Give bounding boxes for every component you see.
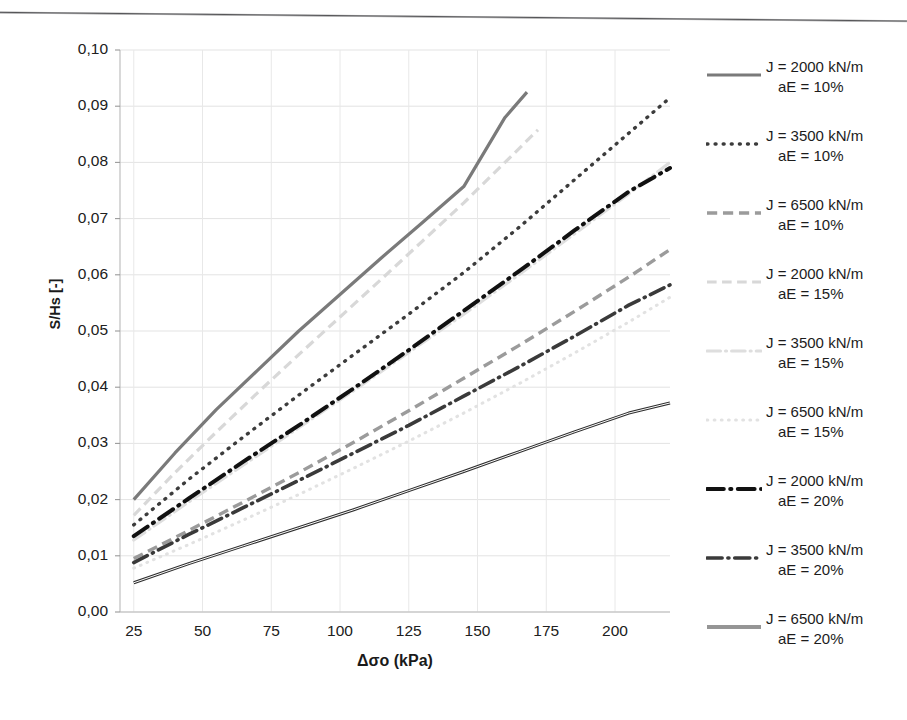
legend-item[interactable]: J = 2000 kN/maE = 20% bbox=[700, 469, 900, 538]
y-tick-label: 0,03 bbox=[50, 433, 108, 451]
legend-line-swatch bbox=[706, 66, 762, 76]
legend-label-line-1: J = 3500 kN/m bbox=[766, 127, 863, 144]
legend-label-line-2: aE = 20% bbox=[766, 629, 906, 649]
legend-label-line-2: aE = 10% bbox=[766, 77, 906, 97]
y-tick-label: 0,07 bbox=[50, 209, 108, 227]
legend-label-line-2: aE = 15% bbox=[766, 422, 906, 442]
legend-item[interactable]: J = 3500 kN/maE = 10% bbox=[700, 124, 900, 193]
legend-label: J = 3500 kN/maE = 20% bbox=[766, 540, 906, 580]
legend-label-line-1: J = 2000 kN/m bbox=[766, 472, 863, 489]
legend-label: J = 3500 kN/maE = 10% bbox=[766, 126, 906, 166]
legend-line-swatch bbox=[706, 549, 762, 559]
series-line bbox=[134, 250, 670, 559]
y-tick-label: 0,09 bbox=[50, 96, 108, 114]
legend-label-line-1: J = 2000 kN/m bbox=[766, 58, 863, 75]
y-axis-title: S/Hs [-] bbox=[47, 244, 63, 364]
legend-item[interactable]: J = 2000 kN/maE = 10% bbox=[700, 55, 900, 124]
y-tick-label: 0,01 bbox=[50, 546, 108, 564]
legend-label: J = 6500 kN/maE = 15% bbox=[766, 402, 906, 442]
legend-line-swatch bbox=[706, 273, 762, 283]
legend-label-line-1: J = 2000 kN/m bbox=[766, 265, 863, 282]
x-tick-label: 50 bbox=[179, 622, 227, 640]
x-tick-label: 150 bbox=[454, 622, 502, 640]
legend-label-line-1: J = 3500 kN/m bbox=[766, 541, 863, 558]
x-tick-label: 175 bbox=[522, 622, 570, 640]
chart-figure: 0,000,010,020,030,040,050,060,070,080,09… bbox=[0, 0, 907, 720]
x-tick-label: 100 bbox=[316, 622, 364, 640]
series-line bbox=[134, 285, 670, 563]
x-tick-label: 200 bbox=[591, 622, 639, 640]
legend-label-line-1: J = 6500 kN/m bbox=[766, 403, 863, 420]
legend-item[interactable]: J = 6500 kN/maE = 15% bbox=[700, 400, 900, 469]
legend-label-line-1: J = 6500 kN/m bbox=[766, 610, 863, 627]
legend-label-line-2: aE = 20% bbox=[766, 560, 906, 580]
legend-line-swatch bbox=[706, 135, 762, 145]
y-tick-label: 0,02 bbox=[50, 490, 108, 508]
series-line bbox=[134, 297, 670, 568]
legend-label-line-2: aE = 10% bbox=[766, 215, 906, 235]
legend-label: J = 2000 kN/maE = 10% bbox=[766, 57, 906, 97]
legend-label: J = 2000 kN/maE = 15% bbox=[766, 264, 906, 304]
legend-label: J = 6500 kN/maE = 10% bbox=[766, 195, 906, 235]
chart-legend: J = 2000 kN/maE = 10%J = 3500 kN/maE = 1… bbox=[700, 55, 900, 676]
legend-item[interactable]: J = 3500 kN/maE = 15% bbox=[700, 331, 900, 400]
legend-item[interactable]: J = 6500 kN/maE = 10% bbox=[700, 193, 900, 262]
legend-label: J = 2000 kN/maE = 20% bbox=[766, 471, 906, 511]
legend-line-swatch bbox=[706, 204, 762, 214]
legend-label-line-1: J = 6500 kN/m bbox=[766, 196, 863, 213]
x-tick-label: 125 bbox=[385, 622, 433, 640]
legend-line-swatch bbox=[706, 411, 762, 421]
legend-line-swatch bbox=[706, 480, 762, 490]
legend-line-swatch bbox=[706, 618, 762, 628]
x-tick-label: 75 bbox=[247, 622, 295, 640]
series-line bbox=[134, 92, 527, 499]
legend-label-line-2: aE = 20% bbox=[766, 491, 906, 511]
data-series-group bbox=[134, 92, 670, 583]
y-tick-label: 0,04 bbox=[50, 377, 108, 395]
legend-label-line-2: aE = 15% bbox=[766, 284, 906, 304]
y-tick-label: 0,00 bbox=[50, 602, 108, 620]
legend-item[interactable]: J = 2000 kN/maE = 15% bbox=[700, 262, 900, 331]
y-tick-label: 0,10 bbox=[50, 40, 108, 58]
x-axis-title: Δσo (kPa) bbox=[120, 652, 670, 670]
legend-label-line-2: aE = 10% bbox=[766, 146, 906, 166]
legend-item[interactable]: J = 6500 kN/maE = 20% bbox=[700, 607, 900, 676]
legend-line-swatch bbox=[706, 342, 762, 352]
x-tick-label: 25 bbox=[110, 622, 158, 640]
y-tick-label: 0,08 bbox=[50, 152, 108, 170]
legend-label: J = 6500 kN/maE = 20% bbox=[766, 609, 906, 649]
legend-label-line-2: aE = 15% bbox=[766, 353, 906, 373]
legend-item[interactable]: J = 3500 kN/maE = 20% bbox=[700, 538, 900, 607]
legend-label-line-1: J = 3500 kN/m bbox=[766, 334, 863, 351]
series-line bbox=[134, 98, 670, 525]
legend-label: J = 3500 kN/maE = 15% bbox=[766, 333, 906, 373]
